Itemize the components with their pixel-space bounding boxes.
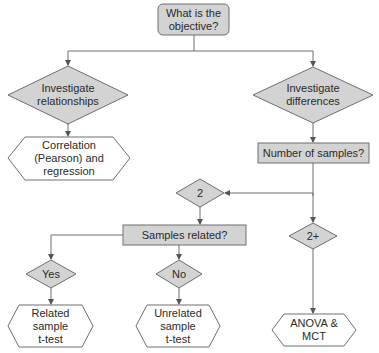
yes-label: Yes bbox=[26, 260, 76, 288]
relationships-label: Investigate relationships bbox=[8, 66, 128, 124]
no-label: No bbox=[156, 260, 202, 288]
related-ttest-label: Related sample t-test bbox=[8, 305, 93, 347]
num-samples-label: Number of samples? bbox=[258, 143, 369, 163]
samples-related-label: Samples related? bbox=[123, 225, 246, 245]
start-node-label: What is the objective? bbox=[158, 4, 229, 35]
two-plus-label: 2+ bbox=[289, 223, 337, 249]
differences-label: Investigate differences bbox=[253, 67, 373, 123]
two-label: 2 bbox=[176, 179, 224, 207]
correlation-label: Correlation (Pearson) and regression bbox=[8, 137, 130, 180]
unrelated-ttest-label: Unrelated sample t-test bbox=[136, 305, 220, 347]
anova-label: ANOVA & MCT bbox=[272, 314, 356, 346]
connector-to-yes bbox=[51, 235, 123, 259]
